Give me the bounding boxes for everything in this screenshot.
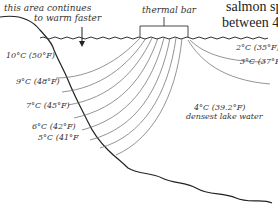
isotherm-label: 2°C (35°F) [236,43,278,52]
isotherm-label: 3°C (37°F) [240,57,278,66]
body-text-line1: salmon spe [226,0,278,15]
thermal-bar-label: thermal bar [142,5,196,15]
isotherm-label: 7°C (45°F) [26,101,70,110]
water-surface [40,37,268,39]
isotherm-label: 5°C (41°F [38,133,79,142]
isotherm-label: 9°C (48°F) [16,77,60,86]
annotation-warm-area-1: this area continues [4,3,91,13]
body-text-line2: between 4 [222,15,278,31]
isotherm-label: 6°C (42°F) [32,122,76,131]
densest-label: 4°C (39.2°F) [194,103,245,112]
arrow-down-icon [79,41,85,47]
densest-sublabel: densest lake water [186,112,263,121]
thermal-bar-bracket [140,17,188,37]
isotherm-label: 10°C (50°F) [6,51,55,60]
annotation-warm-area-2: to warm faster [34,13,101,23]
